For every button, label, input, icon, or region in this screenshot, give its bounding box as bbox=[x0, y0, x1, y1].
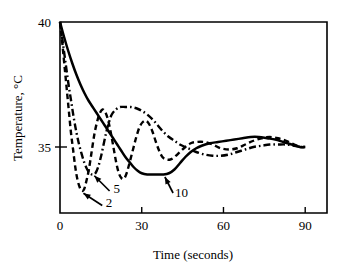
y-axis-title: Temperature, °C bbox=[10, 75, 25, 161]
y-tick-label: 40 bbox=[38, 15, 51, 30]
series-curve-2 bbox=[60, 22, 305, 191]
series-curve-5 bbox=[60, 22, 305, 175]
x-tick-label: 30 bbox=[135, 218, 148, 233]
annotation-label-5: 5 bbox=[113, 181, 120, 196]
axis-ticks bbox=[55, 147, 305, 213]
annotation-label-10: 10 bbox=[175, 185, 188, 200]
chart-figure: 03060903540 2510 Time (seconds) Temperat… bbox=[0, 0, 348, 267]
x-axis-title: Time (seconds) bbox=[153, 247, 233, 262]
annotation-label-2: 2 bbox=[106, 195, 113, 210]
temperature-time-line-chart: 03060903540 2510 Time (seconds) Temperat… bbox=[0, 0, 348, 267]
y-tick-label: 35 bbox=[38, 140, 51, 155]
axis-tick-labels: 03060903540 bbox=[38, 15, 312, 233]
x-tick-label: 0 bbox=[57, 218, 64, 233]
x-tick-label: 60 bbox=[217, 218, 230, 233]
x-tick-label: 90 bbox=[299, 218, 312, 233]
data-series-curves bbox=[60, 22, 305, 191]
series-curve-10 bbox=[60, 22, 305, 175]
series-annotations: 2510 bbox=[83, 176, 188, 210]
